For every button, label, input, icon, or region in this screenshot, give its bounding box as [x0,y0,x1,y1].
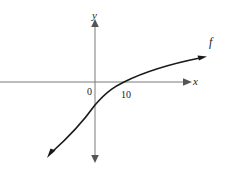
x-intercept-tick-label: 10 [121,90,131,100]
graph-canvas [0,0,229,176]
y-axis-label: y [92,10,97,21]
origin-label: 0 [87,87,92,97]
function-graph-figure: y x f 0 10 [0,0,229,176]
y-axis-down-arrowhead-icon [91,155,99,163]
curve-end-arrowhead-icon [198,56,208,61]
x-axis-arrowhead-icon [183,78,192,86]
curve-name-label: f [209,36,212,48]
function-curve-f [52,58,200,152]
x-axis-label: x [193,76,198,87]
